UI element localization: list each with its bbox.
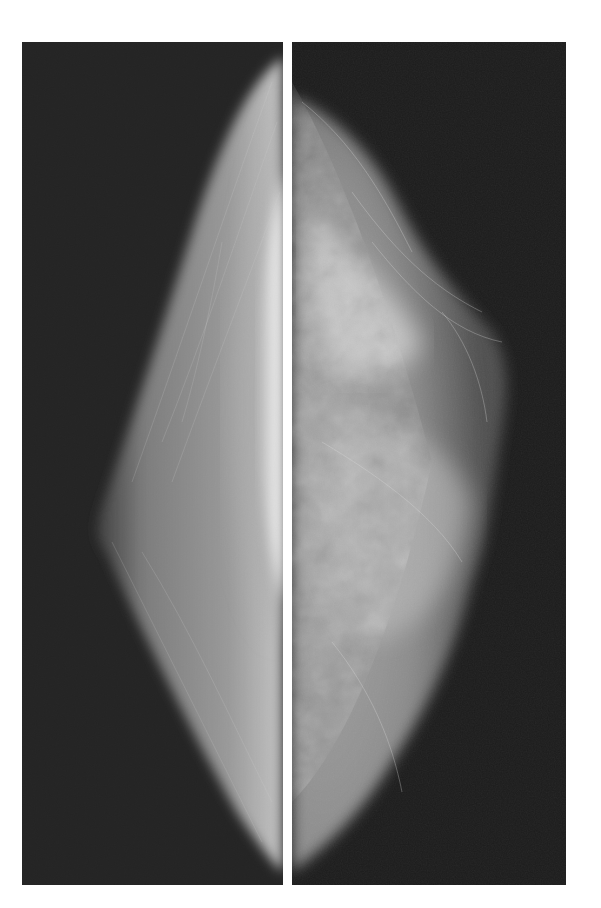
mammogram-panel-right: [292, 42, 566, 885]
film-grain: [292, 42, 566, 885]
mammogram-panel-left: [22, 42, 283, 885]
mammogram-image-right: [292, 42, 566, 885]
mammogram-image-left: [22, 42, 283, 885]
film-grain: [22, 42, 283, 885]
